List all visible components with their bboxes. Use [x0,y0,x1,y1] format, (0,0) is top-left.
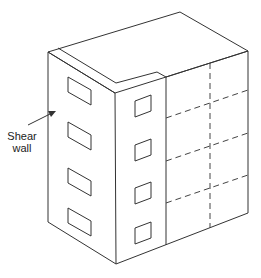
shear-wall-top-front [48,52,166,93]
left-window-1 [68,77,91,105]
shear-wall-left-face [48,52,116,264]
right-window-4 [135,222,151,244]
dashed-floor-1 [166,90,248,118]
right-window-1 [135,95,151,117]
annotation-label: Shear wall [0,130,44,154]
dashed-floor-3 [166,175,248,203]
annotation-line2: wall [0,142,44,154]
left-window-4 [68,208,91,236]
shear-wall-top [58,48,166,83]
annotation-line1: Shear [0,130,44,142]
right-face [116,51,248,264]
left-window-2 [68,122,91,150]
roof-outline [48,12,248,77]
right-window-3 [135,182,151,204]
dashed-floor-2 [166,133,248,161]
right-window-2 [135,139,151,161]
left-window-3 [68,168,91,196]
